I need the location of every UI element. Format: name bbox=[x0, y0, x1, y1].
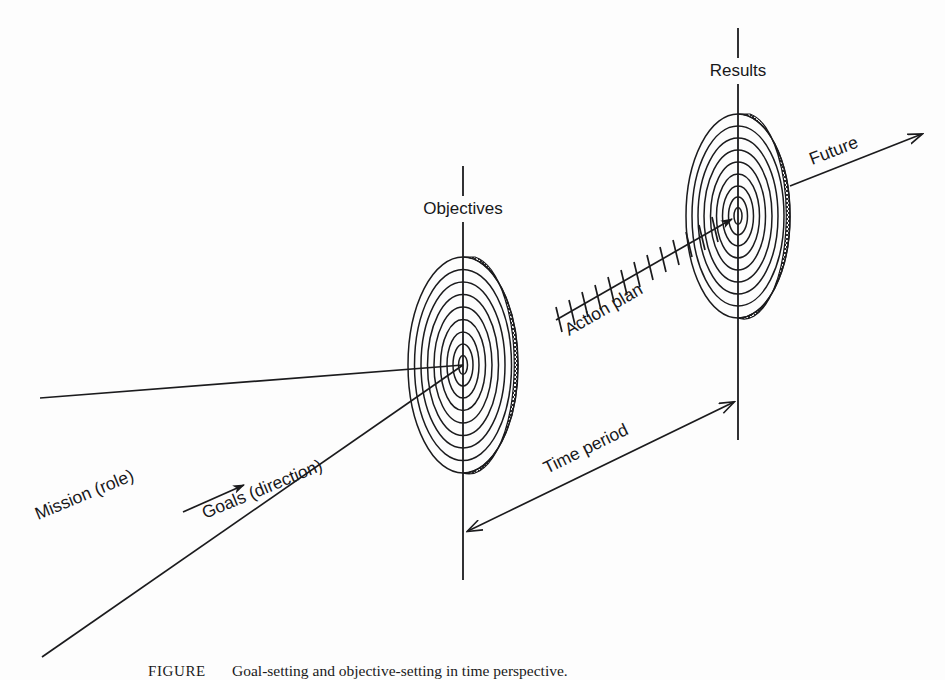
goals-ray-group: Goals (direction) bbox=[42, 365, 463, 657]
mission-label: Mission (role) bbox=[32, 465, 137, 524]
objectives-rim-shading bbox=[463, 257, 518, 474]
objectives-label: Objectives bbox=[423, 199, 502, 218]
results-rim-shading bbox=[738, 114, 790, 319]
goals-ray-line bbox=[42, 365, 463, 657]
caption-lead: FIGURE bbox=[148, 663, 206, 679]
future-label: Future bbox=[806, 132, 860, 169]
mission-ray-line bbox=[40, 365, 463, 398]
diagram-canvas: Objectives Results Mission (role) bbox=[0, 0, 945, 680]
objectives-target-group: Objectives bbox=[408, 166, 518, 580]
action-plan-line bbox=[556, 219, 732, 320]
future-arrow-group: Future bbox=[790, 132, 922, 186]
results-label: Results bbox=[710, 61, 767, 80]
caption-body: Goal-setting and objective-setting in ti… bbox=[232, 662, 568, 679]
figure-container: Objectives Results Mission (role) bbox=[0, 0, 945, 680]
figure-caption: FIGURE Goal-setting and objective-settin… bbox=[148, 662, 568, 679]
goals-label: Goals (direction) bbox=[199, 455, 325, 523]
time-period-label: Time period bbox=[540, 419, 631, 477]
